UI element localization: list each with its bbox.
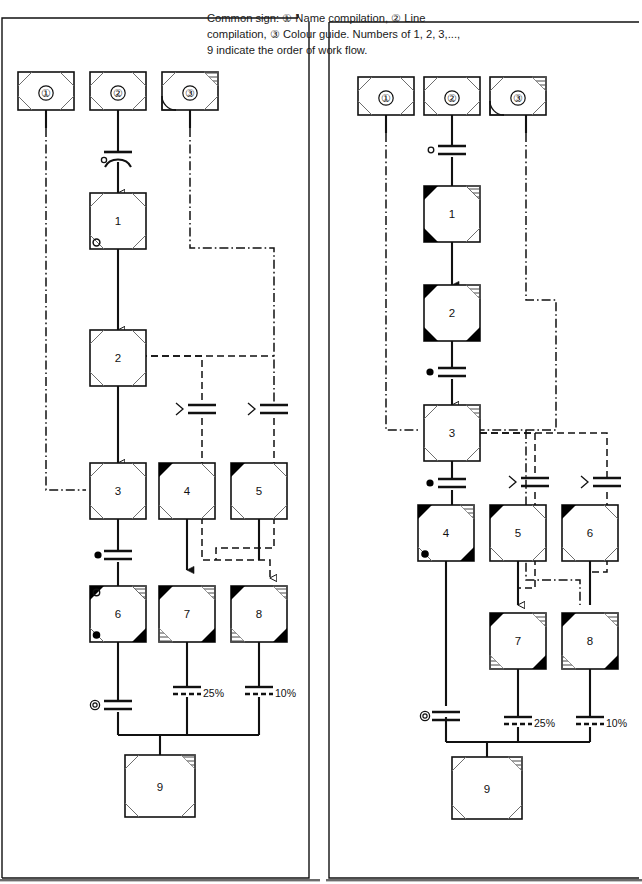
node-left-5: 5 bbox=[231, 463, 287, 519]
node-right-7: 7 bbox=[490, 613, 546, 669]
label-10-right: 10% bbox=[606, 717, 627, 729]
legend-node-1-right: ① bbox=[358, 77, 414, 115]
legend-node-2-right-label: ② bbox=[447, 92, 457, 104]
connector-cap-chevron-right-5 bbox=[509, 476, 549, 488]
node-right-7-label: 7 bbox=[515, 635, 521, 647]
node-left-1: 1 bbox=[90, 193, 146, 249]
right-route-legend1-to-3 bbox=[386, 133, 418, 430]
node-right-6: 6 bbox=[562, 505, 618, 561]
page-frame bbox=[2, 14, 639, 878]
node-left-2: 2 bbox=[90, 330, 146, 386]
right-panel: ① ② ③ bbox=[358, 77, 627, 819]
node-right-3-label: 3 bbox=[449, 427, 455, 439]
node-left-7-label: 7 bbox=[184, 608, 190, 620]
connector-cap-10-right: 10% bbox=[576, 717, 627, 729]
left-panel: ① ② ③ 1 bbox=[18, 72, 296, 817]
node-left-3: 3 bbox=[90, 463, 146, 519]
node-right-4-label: 4 bbox=[443, 527, 450, 539]
connector-cap-dot-left bbox=[94, 551, 132, 559]
legend-node-3: ③ bbox=[162, 72, 218, 110]
caption-line-1: Common sign: ① Name compilation, ② Line bbox=[207, 12, 425, 24]
label-10-left: 10% bbox=[275, 687, 296, 699]
workflow-diagram: Common sign: ① Name compilation, ② Line … bbox=[0, 0, 642, 884]
label-25-right: 25% bbox=[534, 717, 555, 729]
node-left-8: 8 bbox=[231, 586, 287, 642]
right-route-legend3-to-3 bbox=[480, 133, 556, 430]
node-left-2-label: 2 bbox=[115, 352, 121, 364]
legend-node-2-right: ② bbox=[424, 77, 480, 115]
right-route-3-to-6marker bbox=[480, 433, 607, 478]
figure-canvas: Common sign: ① Name compilation, ② Line … bbox=[0, 0, 642, 884]
node-left-5-label: 5 bbox=[256, 485, 262, 497]
caption-line-2: compilation, ③ Colour guide. Numbers of … bbox=[207, 28, 460, 40]
node-right-5-label: 5 bbox=[515, 527, 521, 539]
connector-cap-25-left: 25% bbox=[173, 687, 224, 699]
node-left-7: 7 bbox=[159, 586, 215, 642]
left-route-legend1-to-3 bbox=[46, 128, 86, 490]
node-right-9: 9 bbox=[452, 757, 522, 819]
node-right-1-label: 1 bbox=[449, 208, 455, 220]
node-right-4: 4 bbox=[418, 505, 474, 561]
legend-node-2: ② bbox=[90, 72, 146, 110]
connector-arc-open-left bbox=[101, 152, 132, 167]
legend-node-1: ① bbox=[18, 72, 74, 110]
figure-caption: Common sign: ① Name compilation, ② Line … bbox=[207, 12, 460, 56]
label-25-left: 25% bbox=[203, 687, 224, 699]
node-right-8: 8 bbox=[562, 613, 618, 669]
connector-cap-dot-right-a bbox=[426, 368, 466, 376]
node-right-2-label: 2 bbox=[449, 307, 455, 319]
connector-cap-dblcircle-left bbox=[90, 700, 132, 709]
connector-cap-chevron-right-6 bbox=[581, 476, 621, 488]
left-route-2-to-4marker bbox=[140, 356, 202, 404]
connector-cap-dot-right-b bbox=[426, 479, 466, 487]
node-left-3-label: 3 bbox=[115, 485, 121, 497]
legend-node-3-right: ③ bbox=[490, 77, 546, 115]
node-left-6-label: 6 bbox=[115, 608, 121, 620]
node-left-6: 6 bbox=[90, 586, 146, 642]
node-left-8-label: 8 bbox=[256, 608, 262, 620]
connector-cap-dblcircle-right bbox=[420, 711, 460, 720]
connector-cap-chevron-left-4 bbox=[176, 403, 216, 415]
node-left-9-label: 9 bbox=[157, 781, 163, 793]
connector-cap-chevron-left-5 bbox=[248, 403, 288, 415]
right-legend-nodes: ① ② ③ bbox=[358, 77, 546, 115]
node-right-9-label: 9 bbox=[484, 783, 490, 795]
connector-cap-25-right: 25% bbox=[504, 717, 555, 729]
legend-node-3-right-label: ③ bbox=[513, 92, 523, 104]
node-left-4: 4 bbox=[159, 463, 215, 519]
left-process-nodes: 1 2 3 4 5 bbox=[90, 193, 287, 817]
node-right-1: 1 bbox=[424, 186, 480, 242]
page-baseline bbox=[0, 879, 642, 881]
node-right-6-label: 6 bbox=[587, 527, 593, 539]
node-right-8-label: 8 bbox=[587, 635, 593, 647]
node-right-5: 5 bbox=[490, 505, 546, 561]
connector-cap-open-right bbox=[428, 146, 466, 154]
node-right-2: 2 bbox=[424, 285, 480, 341]
caption-line-3: 9 indicate the order of work flow. bbox=[207, 44, 367, 56]
node-left-1-label: 1 bbox=[115, 215, 121, 227]
legend-node-3-label: ③ bbox=[185, 87, 195, 99]
left-legend-nodes: ① ② ③ bbox=[18, 72, 218, 110]
connector-cap-10-left: 10% bbox=[245, 687, 296, 699]
node-right-3: 3 bbox=[424, 405, 480, 461]
legend-node-2-label: ② bbox=[113, 87, 123, 99]
node-left-9: 9 bbox=[125, 755, 195, 817]
node-left-4-label: 4 bbox=[184, 485, 191, 497]
legend-node-1-label: ① bbox=[41, 87, 51, 99]
legend-node-1-right-label: ① bbox=[381, 92, 391, 104]
